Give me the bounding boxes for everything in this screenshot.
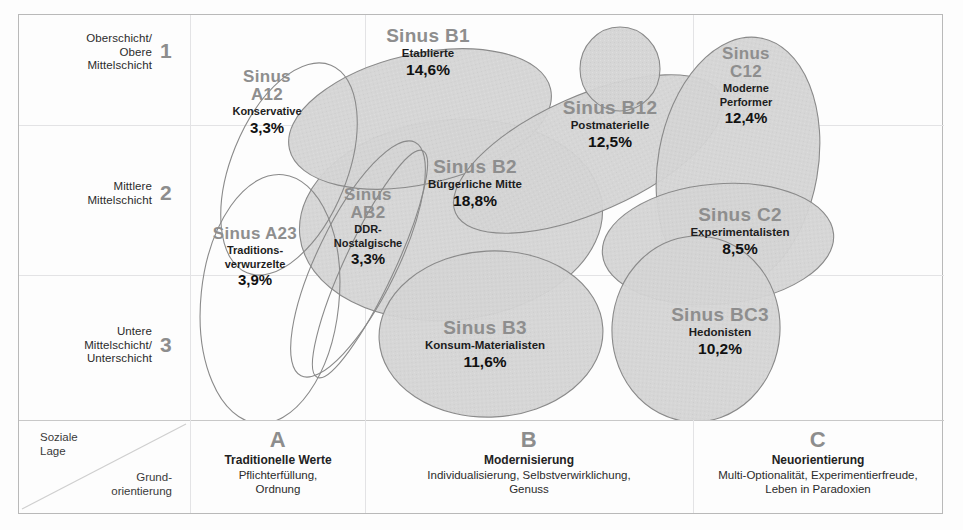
x-axis-title-b: Modernisierung <box>366 453 692 468</box>
corner-lage: Lage <box>40 444 78 458</box>
y-axis-row-3-line1: Untere <box>40 325 152 339</box>
y-axis-row-1-line2: Obere <box>40 46 152 60</box>
x-axis-column-c: C Neuorientierung Multi-Optionalität, Ex… <box>694 428 942 496</box>
y-axis-row-1-line3: Mittelschicht <box>40 59 152 73</box>
corner-grundorientierung: Grund- orientierung <box>58 470 172 498</box>
x-axis-sub-a-line1: Pflichterfüllung, <box>192 468 364 482</box>
x-axis-key-c: C <box>694 428 942 452</box>
x-axis-column-a: A Traditionelle Werte Pflichterfüllung, … <box>192 428 364 496</box>
y-axis-row-3-line2: Mittelschicht/ <box>40 339 152 353</box>
sinus-milieu-chart: Sinus A12 Konservative 3,3% Sinus A23 Tr… <box>0 0 963 530</box>
y-axis-row-1-line1: Oberschicht/ <box>40 32 152 46</box>
y-axis-row-3-number: 3 <box>160 334 172 355</box>
corner-soziale-lage: Soziale Lage <box>40 430 78 458</box>
x-axis-sub-c-line1: Multi-Optionalität, Experimentierfreude, <box>694 468 942 482</box>
x-axis-column-b: B Modernisierung Individualisierung, Sel… <box>366 428 692 496</box>
x-axis-sub-c-line2: Leben in Paradoxien <box>694 482 942 496</box>
y-axis-row-3-line3: Unterschicht <box>40 352 152 366</box>
y-axis-row-2-line2: Mittelschicht <box>40 194 152 208</box>
x-axis-key-a: A <box>192 428 364 452</box>
corner-orientierung: orientierung <box>58 484 172 498</box>
y-axis-row-2-line1: Mittlere <box>40 180 152 194</box>
y-axis-row-2-number: 2 <box>160 182 172 203</box>
y-axis-row-2-label: Mittlere Mittelschicht <box>40 180 152 207</box>
bubble-canvas <box>18 14 943 420</box>
x-axis-title-a: Traditionelle Werte <box>192 453 364 468</box>
y-axis-row-1-number: 1 <box>160 40 172 61</box>
x-axis-sub-b-line2: Genuss <box>366 482 692 496</box>
x-axis-sub-b-line1: Individualisierung, Selbstverwirklichung… <box>366 468 692 482</box>
x-axis-sub-a-line2: Ordnung <box>192 482 364 496</box>
bubble-overlap-top <box>580 27 660 111</box>
y-axis-row-3-label: Untere Mittelschicht/ Unterschicht <box>40 325 152 366</box>
x-axis-title-c: Neuorientierung <box>694 453 942 468</box>
corner-grund: Grund- <box>58 470 172 484</box>
x-axis-key-b: B <box>366 428 692 452</box>
corner-soziale: Soziale <box>40 430 78 444</box>
y-axis-row-1-label: Oberschicht/ Obere Mittelschicht <box>40 32 152 73</box>
